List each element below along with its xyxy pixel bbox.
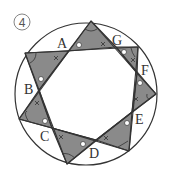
label-F: F: [141, 63, 149, 78]
label-C: C: [40, 129, 49, 144]
label-B: B: [24, 82, 33, 97]
figure-number-badge: 4: [14, 14, 30, 30]
label-A: A: [57, 36, 68, 51]
label-G: G: [112, 33, 122, 48]
label-D: D: [89, 146, 99, 161]
figure-number: 4: [19, 16, 26, 30]
triangle-top: [69, 21, 116, 51]
triangle-lower-right: [96, 112, 132, 151]
label-E: E: [135, 112, 144, 127]
geometry-diagram: 4: [0, 0, 171, 181]
